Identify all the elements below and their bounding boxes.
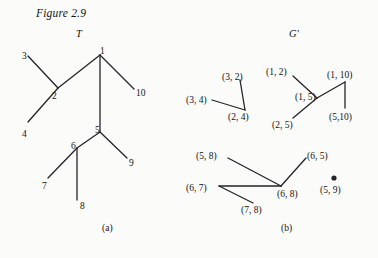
graph-node-label-7_8: (7, 8) <box>241 206 262 216</box>
graph-edge <box>281 158 306 186</box>
graph-edge <box>219 186 253 203</box>
panel-a-caption: (a) <box>102 224 113 234</box>
graph-node-label-5_9: (5, 9) <box>320 186 341 196</box>
tree-node-label-1: 1 <box>100 47 105 57</box>
graph-node-label-6_8: (6, 8) <box>277 190 298 200</box>
graph-node-label-3_2: (3, 2) <box>222 73 243 83</box>
tree-edge <box>28 56 58 88</box>
graph-node-label-1_2: (1, 2) <box>266 68 287 78</box>
graph-node-label-6_5: (6, 5) <box>307 152 328 162</box>
tree-node-label-3: 3 <box>22 52 27 62</box>
graph-node-label-1_5: (1, 5) <box>295 93 316 103</box>
graph-node-label-5_8: (5, 8) <box>196 152 217 162</box>
tree-node-label-5: 5 <box>95 126 100 136</box>
graph-edge-group <box>212 76 345 203</box>
graph-node-label-6_7: (6, 7) <box>186 184 207 194</box>
tree-edge-group <box>28 55 134 200</box>
graph-edge <box>317 82 345 98</box>
figure-line-art <box>0 0 378 258</box>
tree-edge <box>48 148 77 178</box>
tree-node-label-2: 2 <box>52 92 57 102</box>
tree-edge <box>100 132 127 158</box>
tree-node-label-4: 4 <box>22 130 27 140</box>
tree-node-label-8: 8 <box>80 202 85 212</box>
tree-node-label-7: 7 <box>42 182 47 192</box>
panel-b-caption: (b) <box>281 224 292 234</box>
figure-page: Figure 2.9 T G' 12345678910 (3, 2)(3, 4)… <box>0 0 378 258</box>
graph-node-label-2_5: (2, 5) <box>272 121 293 131</box>
graph-node-label-3_4: (3, 4) <box>186 96 207 106</box>
tree-node-label-9: 9 <box>129 159 134 169</box>
graph-edge <box>212 100 245 110</box>
figure-title: Figure 2.9 <box>36 8 86 20</box>
tree-edge <box>100 55 134 89</box>
graph-node-label-1_10: (1, 10) <box>327 71 352 81</box>
tree-node-label-6: 6 <box>71 142 76 152</box>
isolated-vertex-dot <box>331 175 336 180</box>
panel-a-header: T <box>76 29 82 40</box>
graph-node-label-2_4: (2, 4) <box>228 113 249 123</box>
graph-vertex-dot-group <box>331 175 336 180</box>
graph-edge <box>240 80 245 110</box>
tree-edge <box>58 55 100 88</box>
graph-edge <box>228 158 281 186</box>
tree-node-label-10: 10 <box>136 89 146 99</box>
panel-b-header: G' <box>289 29 299 40</box>
graph-node-label-5_10: (5,10) <box>329 113 352 123</box>
